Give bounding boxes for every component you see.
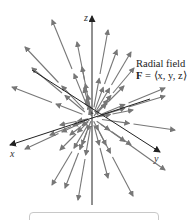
- field-arrow-outer: [52, 20, 72, 69]
- field-arrow-outer: [129, 88, 166, 103]
- field-arrow-outer: [100, 148, 108, 178]
- field-caption: Radial field F = ⟨x, y, z⟩: [136, 58, 187, 82]
- field-arrow-outer: [32, 68, 62, 93]
- field-arrow-inner: [94, 78, 99, 107]
- field-arrow-inner: [94, 125, 99, 145]
- field-arrow-outer: [129, 144, 166, 170]
- field-arrow-outer: [99, 132, 106, 146]
- y-axis: [32, 70, 160, 152]
- field-definition: = ⟨x, y, z⟩: [142, 70, 186, 81]
- field-arrow-inner: [56, 104, 82, 114]
- field-title: Radial field: [136, 58, 187, 70]
- field-arrow-outer: [113, 68, 134, 93]
- y-axis-label: y: [154, 153, 158, 164]
- z-axis-label: z: [84, 12, 88, 23]
- field-formula: F = ⟨x, y, z⟩: [136, 70, 187, 82]
- caption-box: [29, 212, 159, 220]
- field-arrow-inner: [97, 121, 110, 130]
- field-arrows: [12, 20, 175, 200]
- field-arrow-outer: [52, 152, 72, 186]
- field-arrow-outer: [108, 86, 124, 102]
- field-arrow-outer: [113, 157, 134, 196]
- field-arrow-inner: [102, 119, 129, 123]
- field-arrow-outer: [25, 134, 59, 150]
- field-arrow-outer: [60, 134, 76, 150]
- x-axis-label: x: [10, 148, 14, 159]
- field-arrow-outer: [25, 47, 59, 83]
- field-arrow-outer: [129, 96, 166, 107]
- field-arrow-outer: [112, 132, 132, 146]
- field-arrow-outer: [65, 153, 79, 188]
- field-arrow-outer: [100, 30, 108, 74]
- field-arrow-outer: [12, 87, 52, 103]
- field-arrow-outer: [78, 159, 85, 200]
- radial-field-diagram: [0, 0, 196, 220]
- field-arrow-outer: [134, 124, 176, 130]
